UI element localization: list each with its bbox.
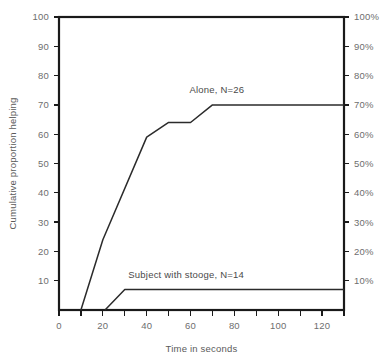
chart-canvas: 102030405060708090100 10%20%30%40%50%60%… [0,0,392,363]
x-tick-label: 100 [270,320,286,331]
x-tick-label: 20 [97,320,108,331]
x-tick-label: 60 [185,320,196,331]
y-axis-right-labels: 10%20%30%40%50%60%70%80%90%100% [354,11,379,286]
y-tick-label-left: 10 [38,275,49,286]
x-tick-label: 120 [314,320,330,331]
y-tick-label-right: 80% [354,70,374,81]
plot-frame [59,17,344,310]
y-tick-label-right: 10% [354,275,374,286]
y-tick-label-left: 80 [38,70,49,81]
y-axis-left-labels: 102030405060708090100 [33,11,49,286]
series-annotations: Alone, N=26Subject with stooge, N=14 [128,84,244,280]
y-tick-label-right: 20% [354,246,374,257]
y-tick-label-left: 70 [38,99,49,110]
y-tick-label-right: 90% [354,41,374,52]
data-line-series-1 [105,289,344,310]
y-tick-label-left: 40 [38,187,49,198]
y-tick-label-left: 60 [38,129,49,140]
x-tick-label: 80 [229,320,240,331]
x-tick-label: 40 [141,320,152,331]
y-tick-label-right: 50% [354,158,374,169]
y-axis-title: Cumulative proportion helping [7,97,18,229]
y-tick-label-right: 40% [354,187,374,198]
chart-figure: 102030405060708090100 10%20%30%40%50%60%… [0,0,392,363]
y-tick-label-left: 50 [38,158,49,169]
x-axis-labels: 020406080100120 [56,320,330,331]
y-tick-label-right: 30% [354,217,374,228]
x-axis-title: Time in seconds [166,343,238,354]
y-tick-label-left: 20 [38,246,49,257]
y-tick-label-right: 70% [354,99,374,110]
y-tick-label-left: 100 [33,11,49,22]
series-label-0: Alone, N=26 [189,84,244,95]
y-tick-label-left: 90 [38,41,49,52]
series-label-1: Subject with stooge, N=14 [128,269,244,280]
x-tick-label: 0 [56,320,61,331]
y-tick-label-right: 100% [354,11,379,22]
y-tick-label-left: 30 [38,217,49,228]
y-tick-label-right: 60% [354,129,374,140]
